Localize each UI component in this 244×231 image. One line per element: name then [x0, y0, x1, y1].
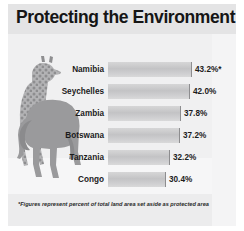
- bar-value-zambia: 37.8%: [184, 108, 207, 120]
- chart-row: Namibia 43.2%*: [0, 62, 244, 84]
- chart-row: Congo 30.4%: [0, 172, 244, 194]
- bar-label-zambia: Zambia: [40, 108, 104, 120]
- bar-value-namibia: 43.2%*: [195, 64, 221, 76]
- bar-track: [108, 150, 218, 165]
- bar-namibia: [108, 62, 192, 77]
- page-title: Protecting the Environment: [16, 7, 232, 28]
- bar-label-tanzania: Tanzania: [40, 152, 104, 164]
- bar-congo: [108, 172, 166, 187]
- bar-value-tanzania: 32.2%: [173, 152, 196, 164]
- bar-label-namibia: Namibia: [40, 64, 104, 76]
- bar-zambia: [108, 106, 181, 121]
- bar-tanzania: [108, 150, 170, 165]
- infographic-root: Protecting the Environment Namibia: [0, 0, 244, 231]
- bar-value-seychelles: 42.0%: [193, 86, 216, 98]
- chart-row: Tanzania 32.2%: [0, 150, 244, 172]
- chart-row: Seychelles 42.0%: [0, 84, 244, 106]
- bar-botswana: [108, 128, 180, 143]
- chart-row: Zambia 37.8%: [0, 106, 244, 128]
- bar-value-botswana: 37.2%: [183, 130, 206, 142]
- bar-label-botswana: Botswana: [40, 130, 104, 142]
- bar-track: [108, 172, 218, 187]
- bar-chart: Namibia 43.2%* Seychelles 42.0% Zambia 3…: [0, 62, 244, 192]
- bar-seychelles: [108, 84, 190, 99]
- bar-label-seychelles: Seychelles: [40, 86, 104, 98]
- bar-label-congo: Congo: [40, 174, 104, 186]
- chart-footnote: *Figures represent percent of total land…: [18, 200, 218, 208]
- bar-value-congo: 30.4%: [169, 174, 192, 186]
- chart-row: Botswana 37.2%: [0, 128, 244, 150]
